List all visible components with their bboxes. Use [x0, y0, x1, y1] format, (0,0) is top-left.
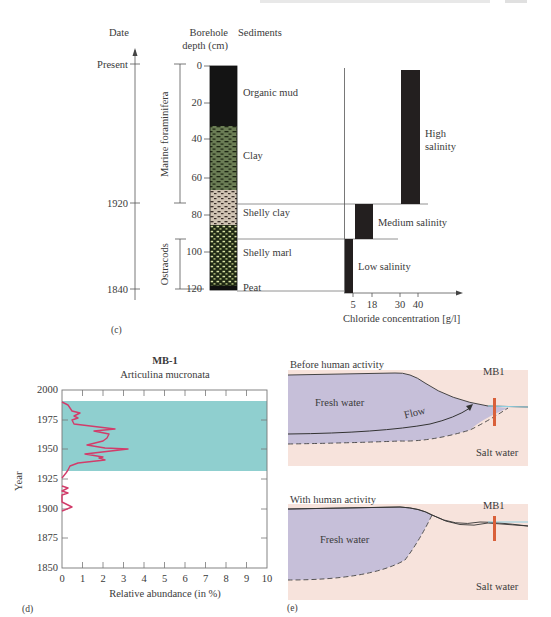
well-mb1-before: [493, 398, 496, 426]
well-mb1-after: [493, 516, 496, 541]
before-title: Before human activity: [290, 360, 384, 371]
before-fresh-water: Fresh water: [315, 398, 364, 409]
after-title: With human activity: [290, 495, 376, 506]
before-well-label: MB1: [483, 367, 505, 378]
panel-label-e: (e): [287, 604, 298, 614]
aquifer-diagrams: [0, 0, 551, 617]
after-well-label: MB1: [483, 501, 505, 512]
after-fresh-water: Fresh water: [320, 535, 369, 546]
before-salt-water: Salt water: [476, 448, 518, 459]
after-salt-water: Salt water: [476, 582, 518, 593]
